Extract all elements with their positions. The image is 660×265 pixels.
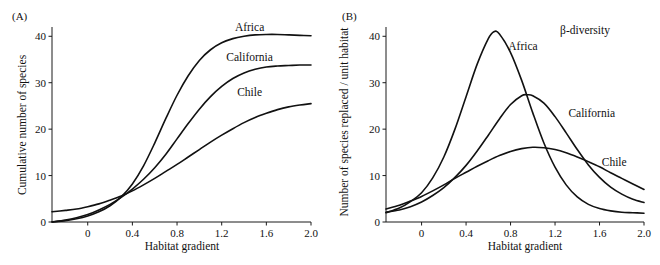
ytick-label: 10 [35,170,47,182]
curve-label-africa: Africa [508,40,537,52]
ytick-label: 0 [41,216,47,228]
ytick-label: 0 [375,216,381,228]
panel-a-xaxis-title: Habitat gradient [145,240,220,253]
xtick-label: 1.2 [548,227,562,239]
panel-a-xtick-labels: 00.40.81.21.62.0 [85,227,318,239]
xtick-label: 1.2 [215,227,229,239]
ytick-label: 20 [369,123,381,135]
ytick-label: 30 [35,77,47,89]
ytick-label: 10 [369,170,381,182]
xtick-label: 1.6 [593,227,607,239]
panel-a-label: (A) [12,10,28,23]
xtick-label: 0.8 [170,227,184,239]
panel-a-yaxis-title: Cumulative number of species [16,54,29,195]
ytick-label: 30 [369,77,381,89]
curve-chile [52,104,311,212]
ytick-label: 40 [35,30,47,42]
beta-diversity-annotation: β-diversity [560,24,610,37]
xtick-label: 0.4 [459,227,473,239]
figure-container: (A) 010203040 00.40.81.21.62.0 AfricaCal… [0,0,660,265]
curve-label-chile: Chile [602,156,627,168]
panel-a-curve-labels: AfricaCaliforniaChile [226,21,273,98]
xtick-label: 2.0 [637,227,651,239]
panel-a-plot: (A) 010203040 00.40.81.21.62.0 AfricaCal… [0,0,330,265]
panel-a: (A) 010203040 00.40.81.21.62.0 AfricaCal… [0,0,330,265]
panel-b-xtick-labels: 00.40.81.21.62.0 [419,227,652,239]
curve-label-california: California [568,107,615,119]
panel-a-ytick-labels: 010203040 [35,30,47,228]
ytick-label: 40 [369,30,381,42]
panel-b: (B) 010203040 00.40.81.21.62.0 AfricaCal… [330,0,660,265]
curve-label-africa: Africa [235,21,264,33]
xtick-label: 0.4 [126,227,140,239]
xtick-label: 1.6 [259,227,273,239]
xtick-label: 0 [85,227,91,239]
xtick-label: 0 [419,227,425,239]
panel-b-curves [386,31,644,213]
curve-africa [386,31,644,213]
ytick-label: 20 [35,123,47,135]
panel-b-xaxis-title: Habitat gradient [488,240,563,253]
xtick-label: 2.0 [304,227,318,239]
panel-b-ytick-labels: 010203040 [369,30,381,228]
curve-label-chile: Chile [237,86,262,98]
panel-b-plot: (B) 010203040 00.40.81.21.62.0 AfricaCal… [330,0,660,265]
panel-b-yaxis-title: Number of species replaced / unit habita… [338,27,351,217]
curve-label-california: California [226,51,273,63]
panel-b-label: (B) [342,10,357,23]
xtick-label: 0.8 [504,227,518,239]
